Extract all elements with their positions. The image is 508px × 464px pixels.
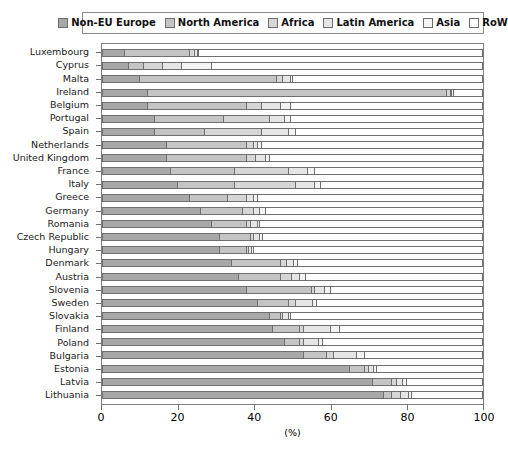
bar-segment[interactable] bbox=[102, 246, 220, 254]
bar-segment[interactable] bbox=[155, 128, 205, 136]
bar-segment[interactable] bbox=[350, 365, 365, 373]
bar-segment[interactable] bbox=[247, 286, 312, 294]
bar-segment[interactable] bbox=[102, 233, 220, 241]
bar-segment[interactable] bbox=[283, 75, 291, 83]
bar-row[interactable] bbox=[102, 299, 483, 307]
bar-row[interactable] bbox=[102, 75, 483, 83]
bar-row[interactable] bbox=[102, 312, 483, 320]
bar-segment[interactable] bbox=[125, 49, 190, 57]
bar-row[interactable] bbox=[102, 102, 483, 110]
bar-segment[interactable] bbox=[102, 181, 178, 189]
bar-segment[interactable] bbox=[232, 259, 282, 267]
bar-segment[interactable] bbox=[298, 259, 483, 267]
bar-segment[interactable] bbox=[102, 141, 167, 149]
bar-row[interactable] bbox=[102, 378, 483, 386]
bar-segment[interactable] bbox=[392, 391, 402, 399]
bar-segment[interactable] bbox=[454, 89, 483, 97]
bar-segment[interactable] bbox=[224, 115, 270, 123]
bar-segment[interactable] bbox=[289, 299, 297, 307]
bar-segment[interactable] bbox=[365, 351, 483, 359]
bar-segment[interactable] bbox=[190, 194, 228, 202]
bar-segment[interactable] bbox=[291, 312, 483, 320]
bar-segment[interactable] bbox=[102, 273, 239, 281]
bar-segment[interactable] bbox=[296, 128, 483, 136]
bar-segment[interactable] bbox=[262, 141, 483, 149]
legend-item[interactable]: Non-EU Europe bbox=[58, 18, 156, 28]
bar-segment[interactable] bbox=[412, 391, 482, 399]
bar-segment[interactable] bbox=[377, 365, 483, 373]
bar-segment[interactable] bbox=[247, 194, 255, 202]
bar-segment[interactable] bbox=[220, 233, 250, 241]
bar-segment[interactable] bbox=[315, 286, 325, 294]
bar-segment[interactable] bbox=[102, 378, 373, 386]
bar-segment[interactable] bbox=[235, 181, 296, 189]
bar-segment[interactable] bbox=[178, 181, 235, 189]
bar-segment[interactable] bbox=[308, 167, 316, 175]
bar-segment[interactable] bbox=[281, 102, 291, 110]
bar-segment[interactable] bbox=[171, 167, 236, 175]
bar-segment[interactable] bbox=[291, 115, 483, 123]
bar-segment[interactable] bbox=[304, 351, 327, 359]
bar-segment[interactable] bbox=[167, 141, 247, 149]
bar-segment[interactable] bbox=[148, 89, 447, 97]
bar-segment[interactable] bbox=[384, 391, 392, 399]
bar-segment[interactable] bbox=[163, 62, 182, 70]
bar-segment[interactable] bbox=[102, 89, 148, 97]
bar-segment[interactable] bbox=[270, 154, 483, 162]
bar-row[interactable] bbox=[102, 181, 483, 189]
bar-row[interactable] bbox=[102, 325, 483, 333]
bar-row[interactable] bbox=[102, 207, 483, 215]
bar-segment[interactable] bbox=[102, 391, 384, 399]
bar-row[interactable] bbox=[102, 49, 483, 57]
bar-row[interactable] bbox=[102, 233, 483, 241]
bar-segment[interactable] bbox=[357, 351, 365, 359]
bar-segment[interactable] bbox=[273, 325, 300, 333]
bar-segment[interactable] bbox=[212, 62, 483, 70]
bar-segment[interactable] bbox=[331, 325, 341, 333]
bar-segment[interactable] bbox=[262, 128, 289, 136]
bar-row[interactable] bbox=[102, 391, 483, 399]
bar-segment[interactable] bbox=[102, 115, 155, 123]
bar-segment[interactable] bbox=[293, 75, 483, 83]
bar-row[interactable] bbox=[102, 351, 483, 359]
bar-segment[interactable] bbox=[144, 62, 163, 70]
bar-segment[interactable] bbox=[304, 325, 331, 333]
bar-segment[interactable] bbox=[182, 62, 212, 70]
bar-segment[interactable] bbox=[407, 378, 483, 386]
bar-row[interactable] bbox=[102, 115, 483, 123]
bar-segment[interactable] bbox=[323, 338, 483, 346]
bar-segment[interactable] bbox=[102, 128, 155, 136]
bar-segment[interactable] bbox=[289, 128, 297, 136]
bar-segment[interactable] bbox=[102, 325, 273, 333]
legend-item[interactable]: Africa bbox=[268, 18, 314, 28]
bar-segment[interactable] bbox=[258, 194, 483, 202]
bar-segment[interactable] bbox=[102, 299, 258, 307]
bar-segment[interactable] bbox=[102, 338, 285, 346]
legend-item[interactable]: Asia bbox=[423, 18, 460, 28]
bar-segment[interactable] bbox=[340, 325, 483, 333]
bar-segment[interactable] bbox=[199, 49, 483, 57]
bar-row[interactable] bbox=[102, 194, 483, 202]
bar-row[interactable] bbox=[102, 62, 483, 70]
bar-segment[interactable] bbox=[289, 167, 308, 175]
bar-segment[interactable] bbox=[317, 299, 483, 307]
bar-segment[interactable] bbox=[148, 102, 247, 110]
bar-row[interactable] bbox=[102, 154, 483, 162]
legend-item[interactable]: RoW bbox=[469, 18, 508, 28]
bar-segment[interactable] bbox=[102, 154, 167, 162]
bar-segment[interactable] bbox=[201, 207, 243, 215]
bar-segment[interactable] bbox=[285, 338, 300, 346]
bar-segment[interactable] bbox=[102, 286, 247, 294]
bar-segment[interactable] bbox=[102, 207, 201, 215]
bar-segment[interactable] bbox=[321, 181, 483, 189]
bar-segment[interactable] bbox=[263, 233, 483, 241]
bar-segment[interactable] bbox=[315, 167, 483, 175]
bar-segment[interactable] bbox=[287, 259, 295, 267]
bar-segment[interactable] bbox=[266, 207, 483, 215]
bar-segment[interactable] bbox=[401, 391, 409, 399]
bar-segment[interactable] bbox=[102, 259, 232, 267]
bar-segment[interactable] bbox=[256, 154, 266, 162]
bar-segment[interactable] bbox=[270, 115, 285, 123]
bar-segment[interactable] bbox=[102, 220, 212, 228]
bar-segment[interactable] bbox=[102, 102, 148, 110]
